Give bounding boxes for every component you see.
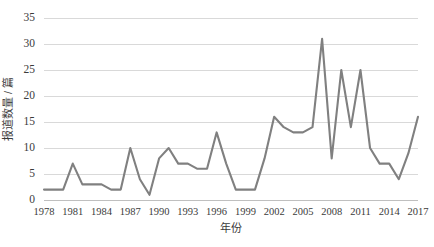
series-line bbox=[44, 39, 418, 195]
y-tick-label: 10 bbox=[24, 141, 36, 153]
y-axis-title: 报道数量 / 篇 bbox=[1, 77, 14, 141]
x-tick-label: 1984 bbox=[91, 206, 113, 217]
chart-container: 05101520253035 1978198119841987199019931… bbox=[0, 0, 434, 247]
x-tick-label: 1999 bbox=[235, 206, 256, 217]
x-tick-label: 1996 bbox=[206, 206, 227, 217]
x-tick-label: 1993 bbox=[177, 206, 198, 217]
y-tick-label: 35 bbox=[24, 11, 36, 23]
x-tick-label: 1990 bbox=[149, 206, 170, 217]
gridlines-group bbox=[44, 18, 418, 200]
y-tick-label: 25 bbox=[24, 63, 36, 75]
x-tick-label: 2011 bbox=[350, 206, 371, 217]
y-tick-label: 15 bbox=[24, 115, 36, 127]
y-tick-label: 5 bbox=[29, 167, 35, 179]
x-axis-title: 年份 bbox=[220, 221, 242, 234]
x-tick-label: 2002 bbox=[264, 206, 285, 217]
x-tick-label: 1981 bbox=[62, 206, 83, 217]
y-tick-label: 30 bbox=[24, 37, 36, 49]
x-tick-label: 2014 bbox=[379, 206, 401, 217]
y-tick-label: 0 bbox=[29, 193, 35, 205]
x-axis-tick-labels: 1978198119841987199019931996199920022005… bbox=[34, 206, 429, 217]
x-tick-label: 1987 bbox=[120, 206, 141, 217]
x-tick-label: 1978 bbox=[34, 206, 55, 217]
y-tick-label: 20 bbox=[24, 89, 36, 101]
data-series-group bbox=[44, 39, 418, 195]
line-chart: 05101520253035 1978198119841987199019931… bbox=[0, 0, 434, 247]
x-tick-label: 2008 bbox=[321, 206, 342, 217]
x-tick-label: 2005 bbox=[292, 206, 313, 217]
x-tick-label: 2017 bbox=[408, 206, 429, 217]
y-axis-tick-labels: 05101520253035 bbox=[24, 11, 36, 205]
